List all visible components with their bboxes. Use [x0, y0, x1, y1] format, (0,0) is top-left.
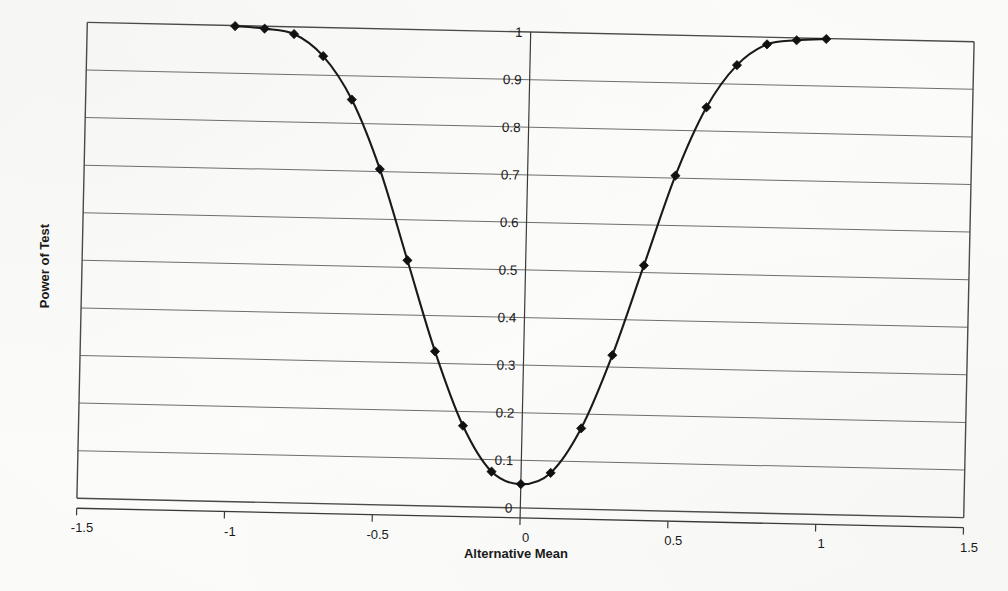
chart-skew-group: 00.10.20.30.40.50.60.70.80.91	[77, 15, 975, 534]
data-point-marker	[639, 261, 648, 270]
data-point-marker	[762, 40, 771, 49]
y-axis-tick-label: 0	[505, 501, 513, 516]
x-axis-tick-label: -0.5	[366, 527, 388, 542]
y-axis-tick-label: 0.2	[495, 405, 514, 420]
x-axis-tick-label: 1	[818, 536, 825, 551]
y-axis-tick-label: 0.8	[502, 120, 521, 135]
data-point-marker	[347, 95, 356, 104]
data-point-marker	[289, 29, 298, 38]
x-axis-tick-label: -1.5	[71, 520, 93, 535]
data-point-marker	[458, 421, 467, 430]
scanned-chart-page: 00.10.20.30.40.50.60.70.80.91 -1.5-1-0.5…	[0, 0, 1008, 591]
data-point-marker	[822, 34, 831, 43]
data-point-marker	[792, 36, 801, 45]
data-point-marker	[576, 424, 585, 433]
y-axis-tick-label: 1	[515, 25, 523, 40]
data-point-marker	[230, 21, 239, 30]
x-axis-tick-label: 0.5	[664, 533, 682, 548]
value-axis	[520, 32, 531, 518]
y-axis-tick-label: 0.7	[501, 167, 520, 182]
data-point-marker	[375, 165, 384, 174]
data-point-marker	[516, 479, 525, 488]
power-curve-chart: 00.10.20.30.40.50.60.70.80.91 -1.5-1-0.5…	[0, 0, 1008, 591]
y-axis-tick-label: 0.4	[498, 310, 518, 325]
data-point-marker	[403, 256, 412, 265]
y-axis-tick-label: 0.3	[496, 358, 515, 373]
x-axis-tick-label: 1.5	[960, 540, 978, 555]
y-axis-tick-label: 0.6	[500, 215, 519, 230]
x-axis-title: Alternative Mean	[464, 546, 568, 561]
data-point-marker	[430, 347, 439, 356]
x-axis-tick-label: -1	[224, 524, 236, 539]
y-axis-tick-label: 0.5	[499, 262, 518, 277]
data-point-marker	[608, 351, 617, 360]
y-axis-value-axis-line	[520, 32, 531, 518]
data-point-marker	[260, 24, 269, 33]
data-point-marker	[671, 171, 680, 180]
y-axis-tick-label: 0.9	[503, 72, 522, 87]
y-axis-title: Power of Test	[37, 223, 52, 308]
x-axis-tick-label: 0	[522, 530, 529, 545]
y-axis-tick-label: 0.1	[494, 453, 513, 468]
data-point-marker	[702, 103, 711, 112]
